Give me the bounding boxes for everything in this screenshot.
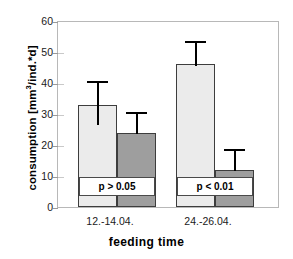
errorbar-cap-group1-light	[87, 81, 108, 83]
y-tick-label-60: 60	[31, 16, 53, 26]
errorbar-cap-group2-dark	[224, 149, 245, 151]
y-gridline-10	[58, 177, 64, 178]
x-axis-title: feeding time	[0, 235, 293, 249]
errorbar-cap-group2-light	[185, 41, 206, 43]
x-category-label-1: 12.-14.04.	[55, 215, 165, 227]
y-tick-label-40: 40	[31, 78, 53, 88]
y-gridline-30	[58, 115, 64, 116]
y-tick-label-50: 50	[31, 47, 53, 57]
pvalue-annotation-group2: p < 0.01	[177, 177, 253, 196]
pvalue-annotation-group1: p > 0.05	[79, 177, 155, 196]
y-gridline-40	[58, 84, 64, 85]
errorbar-stem-group2-light	[195, 41, 197, 66]
y-tick-mark-60	[53, 22, 58, 23]
y-gridline-20	[58, 146, 64, 147]
errorbar-stem-group1-dark	[136, 112, 138, 134]
y-tick-label-30: 30	[31, 109, 53, 119]
plot-area: p > 0.05 p < 0.01	[57, 21, 279, 208]
y-axis-tick-labels: 60 50 40 30 20 10 0	[20, 0, 53, 259]
errorbar-stem-group1-light	[97, 81, 99, 125]
bar-chart-figure: consumption [mm3/ind.*d] 60 50 40 30 20 …	[0, 0, 293, 259]
y-tick-label-0: 0	[31, 202, 53, 212]
y-tick-mark-0	[53, 208, 58, 209]
y-tick-label-10: 10	[31, 171, 53, 181]
y-tick-label-20: 20	[31, 140, 53, 150]
y-gridline-50	[58, 53, 64, 54]
errorbar-cap-group1-dark	[126, 112, 147, 114]
x-category-label-2: 24.-26.04.	[153, 215, 263, 227]
errorbar-stem-group2-dark	[234, 149, 236, 171]
